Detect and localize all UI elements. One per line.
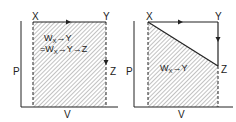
work-annotation-line2: =WX→Y→Z <box>40 44 87 57</box>
point-x-label: X <box>146 12 153 22</box>
point-y-label: Y <box>103 12 110 22</box>
point-z-label: Z <box>110 67 116 77</box>
point-y-label: Y <box>215 12 222 22</box>
p-axis-label: P <box>13 67 20 77</box>
point-z-label: Z <box>221 65 227 75</box>
point-x-label: X <box>32 12 39 22</box>
p-axis-label: P <box>126 67 133 77</box>
arrow-x-to-y-icon <box>178 20 183 25</box>
work-annotation-line1: WX→Y <box>160 63 188 76</box>
v-axis-label: V <box>178 110 185 120</box>
v-axis-label: V <box>64 110 71 120</box>
arrow-y-to-z-icon <box>216 37 221 42</box>
